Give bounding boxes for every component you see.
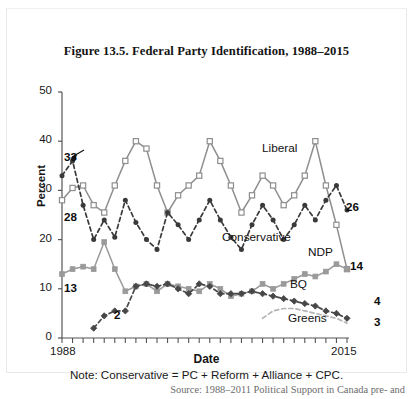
series-marker-liberal: [70, 185, 75, 190]
series-marker-ndp: [271, 286, 276, 291]
y-axis-tick-label: 40: [26, 133, 52, 145]
series-marker-liberal: [218, 158, 223, 163]
series-label-liberal: Liberal: [262, 141, 297, 155]
series-marker-ndp: [70, 267, 75, 272]
series-marker-conservative: [260, 203, 265, 208]
series-marker-conservative: [250, 222, 255, 227]
series-marker-liberal: [112, 183, 117, 188]
series-marker-bq: [101, 313, 107, 319]
series-marker-liberal: [239, 210, 244, 215]
series-marker-liberal: [302, 173, 307, 178]
x-axis-tick-label: 2015: [331, 345, 357, 357]
series-label-conservative: Conservative: [222, 230, 291, 244]
series-marker-conservative: [313, 217, 318, 222]
series-marker-ndp: [197, 289, 202, 294]
series-marker-liberal: [228, 183, 233, 188]
series-marker-bq: [291, 298, 297, 304]
series-marker-liberal: [271, 183, 276, 188]
series-marker-ndp: [112, 267, 117, 272]
series-label-ndp: NDP: [308, 245, 333, 259]
series-marker-liberal: [334, 222, 339, 227]
series-label-bq: BQ: [290, 277, 307, 291]
series-marker-ndp: [60, 272, 65, 277]
series-marker-ndp: [281, 281, 286, 286]
series-marker-conservative: [323, 198, 328, 203]
series-marker-conservative: [218, 217, 223, 222]
x-axis-tick-label: 1988: [50, 345, 76, 357]
series-marker-bq: [312, 303, 318, 309]
series-marker-conservative: [155, 247, 160, 252]
series-marker-ndp: [345, 267, 350, 272]
series-marker-conservative: [123, 198, 128, 203]
series-marker-conservative: [144, 237, 149, 242]
series-marker-liberal: [59, 198, 64, 203]
series-marker-conservative: [302, 203, 307, 208]
series-marker-bq: [302, 300, 308, 306]
y-axis-tick-label: 0: [26, 330, 52, 342]
y-axis-tick-label: 50: [26, 84, 52, 96]
series-marker-conservative: [133, 220, 138, 225]
annotation-conservative-end: 26: [346, 200, 359, 213]
series-marker-liberal: [91, 203, 96, 208]
series-marker-conservative: [292, 222, 297, 227]
series-marker-liberal: [81, 183, 86, 188]
series-marker-conservative: [112, 235, 117, 240]
series-marker-liberal: [154, 183, 159, 188]
series-marker-conservative: [91, 237, 96, 242]
series-marker-conservative: [197, 217, 202, 222]
series-marker-ndp: [323, 269, 328, 274]
annotation-greens-end: 3: [374, 315, 380, 328]
series-marker-conservative: [186, 237, 191, 242]
series-marker-ndp: [81, 264, 86, 269]
y-axis-tick-label: 30: [26, 182, 52, 194]
series-marker-liberal: [313, 139, 318, 144]
series-marker-liberal: [207, 139, 212, 144]
series-marker-ndp: [123, 289, 128, 294]
annotation-bq-end: 4: [374, 294, 380, 307]
series-marker-conservative: [165, 210, 170, 215]
annotation-liberal-start: 28: [64, 210, 77, 223]
series-marker-bq: [344, 315, 350, 321]
series-marker-ndp: [91, 267, 96, 272]
annotation-ndp-start: 13: [64, 281, 77, 294]
series-marker-ndp: [313, 274, 318, 279]
series-marker-liberal: [123, 158, 128, 163]
figure-note: Note: Conservative = PC + Reform + Allia…: [0, 368, 413, 381]
series-marker-ndp: [302, 272, 307, 277]
series-marker-ndp: [334, 262, 339, 267]
series-marker-liberal: [186, 183, 191, 188]
series-marker-liberal: [260, 173, 265, 178]
series-marker-liberal: [102, 210, 107, 215]
figure-page: Figure 13.5. Federal Party Identificatio…: [0, 0, 413, 399]
series-label-greens: Greens: [288, 311, 327, 325]
y-axis-tick-label: 10: [26, 281, 52, 293]
series-marker-ndp: [260, 281, 265, 286]
series-marker-bq: [333, 310, 339, 316]
y-axis-tick-label: 20: [26, 232, 52, 244]
annotation-conservative-start: 33: [64, 150, 77, 163]
series-marker-conservative: [334, 183, 339, 188]
series-marker-bq: [270, 293, 276, 299]
annotation-ndp-end: 14: [350, 259, 363, 272]
series-marker-conservative: [176, 222, 181, 227]
series-marker-liberal: [323, 183, 328, 188]
series-marker-conservative: [239, 247, 244, 252]
series-marker-liberal: [133, 139, 138, 144]
series-marker-bq: [281, 296, 287, 302]
series-marker-conservative: [102, 217, 107, 222]
series-marker-liberal: [176, 193, 181, 198]
series-marker-conservative: [60, 173, 65, 178]
figure-source: Source: 1988–2011 Political Support in C…: [0, 384, 413, 395]
series-marker-liberal: [197, 173, 202, 178]
series-marker-conservative: [271, 217, 276, 222]
series-marker-liberal: [144, 146, 149, 151]
series-marker-bq: [122, 308, 128, 314]
series-marker-conservative: [207, 198, 212, 203]
series-marker-conservative: [81, 203, 86, 208]
series-marker-liberal: [292, 193, 297, 198]
series-marker-liberal: [281, 203, 286, 208]
series-marker-ndp: [102, 240, 107, 245]
series-marker-liberal: [249, 193, 254, 198]
annotation-bq-start: 2: [114, 308, 120, 321]
series-marker-bq: [259, 291, 265, 297]
